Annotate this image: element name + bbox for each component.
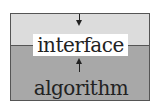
- interface-label: interface: [33, 34, 128, 56]
- arrow-down-icon: [79, 14, 80, 24]
- arrow-up-icon: [79, 60, 80, 72]
- algorithm-label: algorithm: [26, 78, 136, 100]
